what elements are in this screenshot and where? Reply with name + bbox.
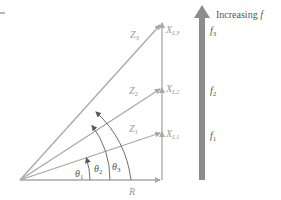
label-xl1: XL1: [165, 128, 180, 141]
frequency-arrow-head-icon: [194, 5, 210, 18]
frequency-arrow-shaft: [199, 16, 205, 180]
label-f2: f2: [210, 85, 217, 98]
label-z3: Z3: [130, 29, 140, 42]
label-r: R: [128, 186, 135, 197]
frequency-caption: Increasing f: [216, 9, 264, 20]
label-theta2: θ2: [94, 163, 103, 176]
label-theta3: θ3: [112, 161, 121, 174]
label-xl3: XL3: [165, 24, 180, 37]
label-xl2: XL2: [165, 83, 180, 96]
label-z1: Z1: [129, 123, 139, 136]
label-z2: Z2: [129, 85, 139, 98]
angle-arc-theta1: [86, 158, 90, 180]
impedance-diagram: Z3 Z2 Z1 XL3 XL2 XL1 R θ1 θ2 θ3 Increasi…: [0, 0, 281, 200]
label-f3: f3: [210, 25, 217, 38]
label-theta1: θ1: [75, 168, 84, 181]
label-f1: f1: [210, 130, 217, 143]
